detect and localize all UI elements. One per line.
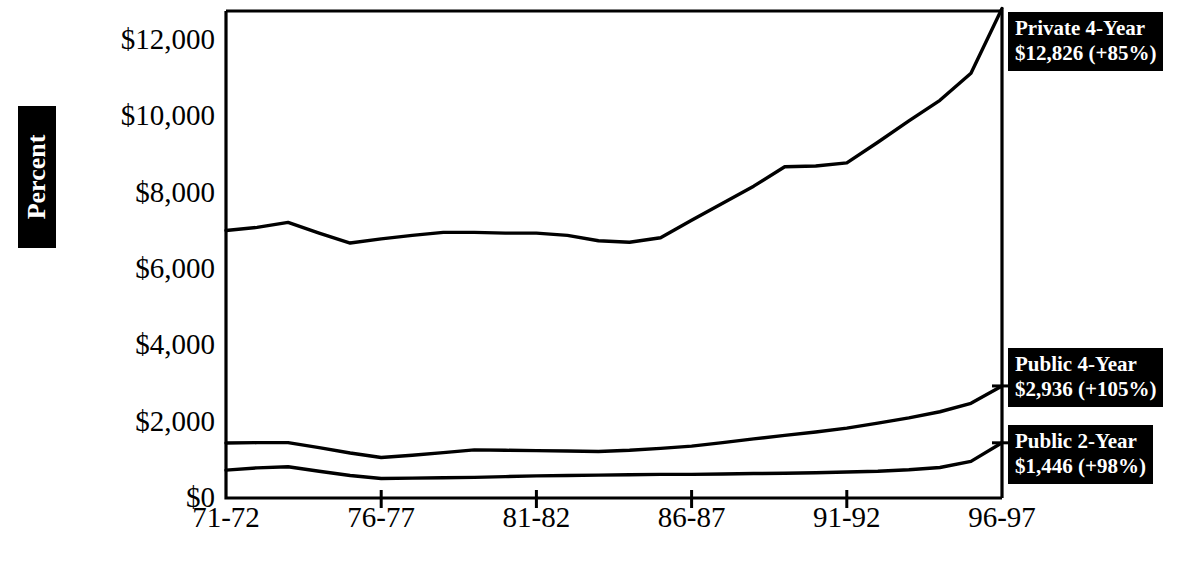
legend-public2-name: Public 2-Year bbox=[1015, 429, 1146, 454]
x-axis-tick-label: 86-87 bbox=[612, 503, 772, 532]
x-axis-tick-label: 76-77 bbox=[301, 503, 461, 532]
legend-public2-value: $1,446 (+98%) bbox=[1015, 454, 1146, 479]
x-axis-tick-labels: 71-7276-7781-8286-8791-9296-97 bbox=[0, 503, 1200, 553]
legend-public4-name: Public 4-Year bbox=[1015, 352, 1156, 377]
chart-container: Percent $0$2,000$4,000$6,000$8,000$10,00… bbox=[0, 0, 1200, 565]
legend-public-4-year[interactable]: Public 4-Year $2,936 (+105%) bbox=[1008, 348, 1163, 407]
plot-frame bbox=[226, 11, 1002, 498]
series-line bbox=[226, 443, 1002, 479]
legend-private-name: Private 4-Year bbox=[1015, 16, 1156, 41]
legend-private-value: $12,826 (+85%) bbox=[1015, 41, 1156, 66]
series-line bbox=[226, 8, 1002, 243]
legend-public-2-year[interactable]: Public 2-Year $1,446 (+98%) bbox=[1008, 425, 1153, 484]
legend-leader-lines bbox=[992, 386, 1008, 443]
legend-public4-value: $2,936 (+105%) bbox=[1015, 377, 1156, 402]
x-axis-tick-label: 71-72 bbox=[146, 503, 306, 532]
x-axis-tick-label: 91-92 bbox=[767, 503, 927, 532]
data-series-group bbox=[226, 8, 1002, 478]
series-line bbox=[226, 386, 1002, 458]
x-axis-tick-label: 96-97 bbox=[922, 503, 1082, 532]
legend-private-4-year[interactable]: Private 4-Year $12,826 (+85%) bbox=[1008, 12, 1163, 71]
x-axis-tick-label: 81-82 bbox=[456, 503, 616, 532]
